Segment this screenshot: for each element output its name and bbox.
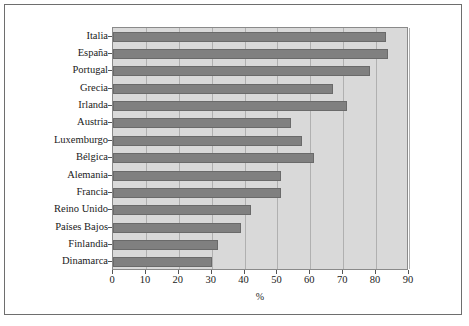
bar-dinamarca — [113, 257, 212, 267]
y-axis-label-luxemburgo: Luxemburgo — [15, 134, 108, 145]
bar-irlanda — [113, 101, 347, 111]
bar-row — [113, 202, 407, 219]
gridline-90 — [409, 28, 410, 269]
bar-row — [113, 132, 407, 149]
bar-row — [113, 150, 407, 167]
x-tick-label-50: 50 — [271, 274, 282, 285]
x-tick-label-80: 80 — [370, 274, 381, 285]
y-axis-label-grecia: Grecia — [15, 82, 108, 93]
figure-caption-cropped — [6, 318, 306, 326]
x-axis-title: % — [112, 291, 408, 302]
y-axis-label-austria: Austria — [15, 116, 108, 127]
y-axis-category-labels: ItaliaEspañaPortugalGreciaIrlandaAustria… — [15, 27, 108, 270]
bar-austria — [113, 118, 291, 128]
y-axis-label-reino-unido: Reino Unido — [15, 203, 108, 214]
bar-row — [113, 184, 407, 201]
bar-row — [113, 97, 407, 114]
bar-países-bajos — [113, 223, 241, 233]
bar-italia — [113, 32, 386, 42]
bar-row — [113, 115, 407, 132]
x-tick-label-60: 60 — [304, 274, 315, 285]
bar-finlandia — [113, 240, 218, 250]
x-tick-label-30: 30 — [205, 274, 216, 285]
bar-reino-unido — [113, 205, 251, 215]
bar-alemania — [113, 171, 281, 181]
bar-grecia — [113, 84, 333, 94]
x-tick-label-10: 10 — [140, 274, 151, 285]
bar-row — [113, 28, 407, 45]
bar-series — [113, 28, 407, 269]
bar-portugal — [113, 66, 370, 76]
x-tick-label-20: 20 — [173, 274, 184, 285]
bar-españa — [113, 49, 388, 59]
y-axis-label-alemania: Alemania — [15, 169, 108, 180]
plot-area — [112, 27, 408, 270]
y-axis-label-países-bajos: Países Bajos — [15, 221, 108, 232]
y-axis-label-finlandia: Finlandia — [15, 238, 108, 249]
bar-row — [113, 236, 407, 253]
x-tick-label-40: 40 — [238, 274, 249, 285]
x-axis-tick-labels: 0102030405060708090 — [112, 274, 408, 288]
bar-row — [113, 254, 407, 271]
y-axis-label-dinamarca: Dinamarca — [15, 255, 108, 266]
bar-bélgica — [113, 153, 314, 163]
x-tick-label-70: 70 — [337, 274, 348, 285]
bar-row — [113, 167, 407, 184]
x-tick-label-90: 90 — [403, 274, 414, 285]
y-axis-label-irlanda: Irlanda — [15, 99, 108, 110]
y-axis-label-bélgica: Bélgica — [15, 151, 108, 162]
y-axis-label-portugal: Portugal — [15, 64, 108, 75]
bar-francia — [113, 188, 281, 198]
bar-row — [113, 45, 407, 62]
y-axis-label-francia: Francia — [15, 186, 108, 197]
chart-figure: ItaliaEspañaPortugalGreciaIrlandaAustria… — [0, 0, 469, 326]
figure-frame: ItaliaEspañaPortugalGreciaIrlandaAustria… — [4, 4, 462, 315]
bar-row — [113, 63, 407, 80]
bar-row — [113, 80, 407, 97]
x-tick-label-0: 0 — [109, 274, 114, 285]
bar-luxemburgo — [113, 136, 302, 146]
y-axis-label-italia: Italia — [15, 30, 108, 41]
y-axis-label-españa: España — [15, 47, 108, 58]
bar-row — [113, 219, 407, 236]
